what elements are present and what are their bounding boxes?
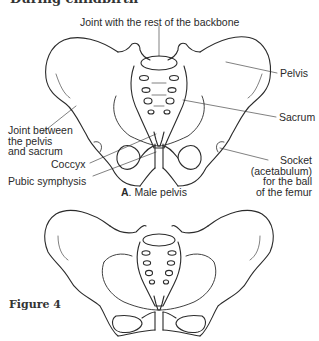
caption-male-pelvis: A. Male pelvis (121, 186, 187, 198)
label-joint-pelvis-sacrum: Joint between the pelvis and sacrum (8, 125, 73, 157)
label-line: and sacrum (8, 146, 73, 157)
figure-label: Figure 4 (9, 298, 61, 311)
label-line: for the ball (238, 176, 312, 187)
label-pelvis: Pelvis (280, 68, 308, 79)
label-line: of the femur (238, 187, 312, 198)
caption-letter: A (121, 186, 129, 198)
caption-text: . Male pelvis (129, 186, 187, 198)
leader-lines (42, 26, 277, 176)
label-line: Joint between (8, 125, 73, 136)
label-socket: Socket (acetabulum) for the ball of the … (238, 155, 312, 197)
label-backbone-joint: Joint with the rest of the backbone (80, 17, 239, 28)
label-line: Socket (238, 155, 312, 166)
label-pubic-symphysis: Pubic symphysis (8, 176, 86, 187)
female-pelvis-drawing (45, 210, 274, 336)
label-coccyx: Coccyx (51, 159, 85, 170)
label-sacrum: Sacrum (279, 112, 315, 123)
